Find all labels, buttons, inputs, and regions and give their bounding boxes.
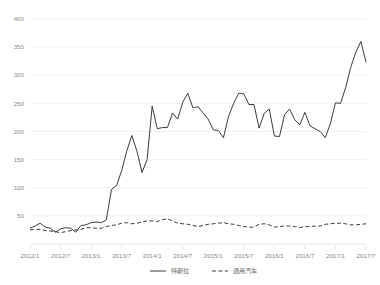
x-axis-label-2013-7: 2013/7: [112, 252, 131, 259]
y-axis-label-400: 400: [14, 15, 25, 22]
x-axis-label-2014-7: 2014/7: [173, 252, 192, 259]
x-axis-label-2017-1: 2017/1: [326, 252, 345, 259]
x-axis-label-2015-1: 2015/1: [204, 252, 223, 259]
legend-label-0: 特斯拉: [171, 267, 189, 275]
gridlines: [30, 19, 366, 244]
x-axis-label-2012-7: 2012/7: [51, 252, 70, 259]
y-axis-label-350: 350: [14, 43, 25, 50]
x-axis-label-2013-1: 2013/1: [82, 252, 101, 259]
y-axis-label-250: 250: [14, 100, 25, 107]
series-line-0: [30, 42, 366, 233]
y-axis-tick-labels: 50100150200250300350400: [14, 15, 25, 219]
y-axis-label-100: 100: [14, 184, 25, 191]
x-axis-label-2012-1: 2012/1: [21, 252, 40, 259]
y-axis-label-50: 50: [17, 212, 24, 219]
chart-legend: 特斯拉通用汽车: [150, 267, 257, 275]
y-axis-label-200: 200: [14, 128, 25, 135]
data-series: [30, 42, 366, 233]
y-axis-label-300: 300: [14, 71, 25, 78]
y-axis-label-150: 150: [14, 156, 25, 163]
stock-comparison-chart: 50100150200250300350400 2012/12012/72013…: [0, 0, 380, 285]
x-axis-label-2015-7: 2015/7: [234, 252, 253, 259]
chart-svg: 50100150200250300350400 2012/12012/72013…: [0, 0, 380, 285]
x-axis-label-2014-1: 2014/1: [143, 252, 162, 259]
legend-label-1: 通用汽车: [233, 267, 257, 275]
x-axis-label-2017-7: 2017/7: [357, 252, 376, 259]
x-axis-label-2016-7: 2016/7: [295, 252, 314, 259]
x-axis-tick-labels: 2012/12012/72013/12013/72014/12014/72015…: [21, 246, 376, 259]
x-axis-label-2016-1: 2016/1: [265, 252, 284, 259]
